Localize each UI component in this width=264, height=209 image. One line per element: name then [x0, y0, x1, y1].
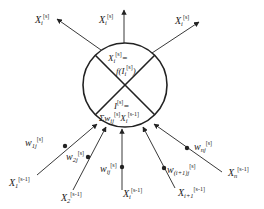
output-label-right: Xi[s]: [175, 14, 189, 28]
neuron-output-formula-line2: f(Ii[s]): [116, 64, 136, 78]
input-label-2: X2[s-1]: [61, 191, 82, 205]
weight-label-1: w1j[s]: [25, 136, 43, 150]
weight-node-2: [86, 155, 90, 159]
weight-label-2: w2j[s]: [66, 150, 84, 164]
weight-node-1: [63, 144, 67, 148]
neuron-diagram: Xi[s] Xi[s] Xi[s] Xi[s]= f(Ii[s]) I[s]= …: [0, 0, 264, 209]
weight-label-n: wnj[s]: [194, 140, 212, 154]
input-label-i-plus-1: Xi+1[s-1]: [178, 186, 205, 200]
output-label-center: Xi[s]: [99, 13, 113, 27]
neuron-diagram-graphics: [0, 0, 264, 209]
output-label-left: Xi[s]: [35, 13, 49, 27]
weight-node-n: [185, 146, 189, 150]
weight-node-i-plus-1: [162, 166, 166, 170]
neuron-input-formula-line2: Σwij[s]Xi[s-1]: [99, 111, 139, 125]
weight-label-i: wij[s]: [100, 162, 117, 176]
input-label-n: Xn[s-1]: [228, 166, 249, 180]
weight-label-i-plus-1: w(i+1)j[s]: [167, 163, 196, 177]
input-arrow-i-plus-1: [143, 127, 175, 188]
neuron-output-formula-line1: Xi[s]=: [108, 51, 128, 65]
weight-node-i: [120, 165, 124, 169]
output-arrow-left: [57, 19, 101, 50]
input-label-1: X1[s-1]: [9, 176, 30, 190]
input-label-i: Xi[s-1]: [123, 187, 142, 201]
neuron-input-formula-line1: I[s]=: [114, 99, 129, 111]
